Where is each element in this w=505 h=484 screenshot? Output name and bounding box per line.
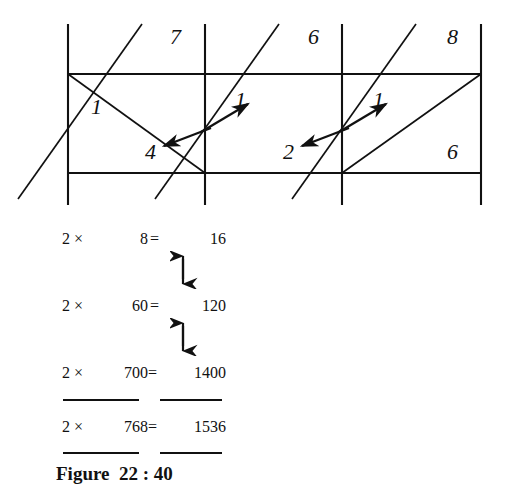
total-equals-symbol: = xyxy=(148,418,157,436)
eq2-product: 120 xyxy=(170,297,226,315)
eq2-multiplier: 60 xyxy=(96,297,148,315)
eq3-product: 1400 xyxy=(168,364,226,382)
eq2-equals-symbol: = xyxy=(150,297,159,315)
total-product: 1536 xyxy=(168,418,226,436)
eq3-factor: 2 xyxy=(56,364,70,382)
eq1-factor: 2 xyxy=(56,230,70,248)
sum-rule-right-bottom xyxy=(160,452,222,454)
sum-rule-right-top xyxy=(160,399,222,401)
lattice-carry-one-left: 1 xyxy=(91,96,102,118)
total-multiplier: 768 xyxy=(92,418,148,436)
sum-rule-left-bottom xyxy=(63,452,139,454)
lattice-top-digit-7: 7 xyxy=(170,26,181,48)
lattice-grid-svg xyxy=(0,0,505,215)
lattice-multiplication-figure: 7 6 8 1 4 1 2 1 6 xyxy=(0,0,505,215)
eq1-multiplier: 8 xyxy=(108,230,148,248)
lattice-product-four: 4 xyxy=(145,141,156,163)
total-times-symbol: × xyxy=(74,418,83,436)
lattice-vertical-lines xyxy=(68,24,481,205)
lattice-carry-one-middle: 1 xyxy=(235,89,246,111)
lattice-horizontal-lines xyxy=(68,74,481,173)
figure-caption: Figure 22 : 40 xyxy=(56,464,173,483)
eq1-product: 16 xyxy=(170,230,226,248)
eq3-times-symbol: × xyxy=(74,364,83,382)
carry-arrow-16-to-120 xyxy=(170,251,200,289)
lattice-carry-one-right: 1 xyxy=(373,89,384,111)
carry-arrow-120-to-1400 xyxy=(170,318,200,356)
total-factor: 2 xyxy=(56,418,70,436)
lattice-diagonal-lines-secondary xyxy=(342,74,481,173)
eq1-equals-symbol: = xyxy=(150,230,159,248)
lattice-product-two: 2 xyxy=(283,141,294,163)
lattice-top-digit-8: 8 xyxy=(447,26,458,48)
lattice-product-six: 6 xyxy=(447,141,458,163)
sum-rule-left-top xyxy=(63,399,139,401)
eq1-times-symbol: × xyxy=(74,230,83,248)
eq2-times-symbol: × xyxy=(74,297,83,315)
lattice-top-digit-6: 6 xyxy=(308,26,319,48)
eq3-equals-symbol: = xyxy=(148,364,157,382)
eq2-factor: 2 xyxy=(56,297,70,315)
eq3-multiplier: 700 xyxy=(92,364,148,382)
